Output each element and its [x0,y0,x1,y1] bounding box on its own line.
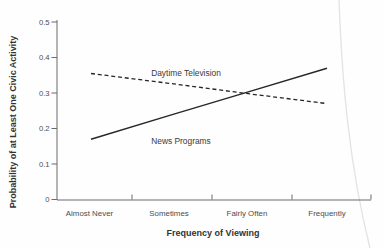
y-tick-label: 0.5 [39,18,50,27]
x-axis-ticks [132,195,371,200]
series-label-daytime-television: Daytime Television [151,68,221,78]
y-tick-label: 0.1 [39,160,50,169]
axes-lines [57,20,371,200]
series-line-daytime-television [91,74,327,104]
x-tick-label: Fairly Often [227,209,268,218]
x-tick-label: Sometimes [149,209,189,218]
y-tick-label: 0.3 [39,89,50,98]
x-tick-label: Almost Never [66,209,114,218]
y-axis-ticks [52,22,58,200]
chart-canvas: 00.10.20.30.40.5 Almost NeverSometimesFa… [0,0,384,249]
y-axis-tick-labels: 00.10.20.30.40.5 [39,18,50,205]
x-axis-tick-labels: Almost NeverSometimesFairly OftenFrequen… [66,209,346,218]
series-line-news-programs [91,68,327,139]
y-tick-label: 0 [45,195,49,204]
y-axis-title: Probability of at Least One Civic Activi… [8,36,18,209]
y-tick-label: 0.4 [39,53,50,62]
civic-activity-line-chart: 00.10.20.30.40.5 Almost NeverSometimesFa… [0,0,384,249]
data-series-lines [91,68,327,139]
series-label-news-programs: News Programs [151,136,211,146]
x-tick-label: Frequently [308,209,345,218]
x-axis-title: Frequency of Viewing [167,228,260,238]
y-tick-label: 0.2 [39,124,50,133]
